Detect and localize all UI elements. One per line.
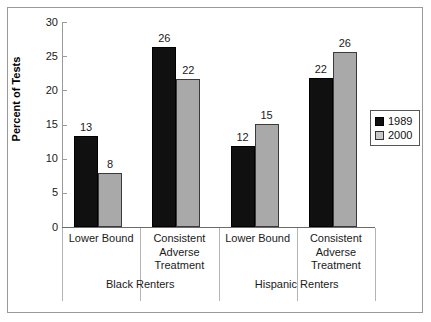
group-label-0: Black Renters (62, 278, 219, 300)
legend-swatch-icon-2000 (375, 131, 384, 140)
legend-swatch-icon-1989 (375, 117, 384, 126)
bar-value-label: 26 (146, 33, 182, 44)
y-axis-tick-label: 20 (30, 85, 58, 96)
category-label: ConsistentAdverseTreatment (140, 228, 218, 274)
bar-2000-cat2 (255, 124, 279, 227)
y-axis-tick-label: 25 (30, 51, 58, 62)
bar-1989-cat0 (74, 136, 98, 227)
bar-1989-cat2 (231, 146, 255, 227)
legend-item-2000: 2000 (375, 128, 415, 142)
legend-label-1989: 1989 (388, 116, 412, 127)
chart-figure: Percent of Tests 051015202530 1382622121… (0, 0, 431, 322)
category-label: Lower Bound (62, 228, 140, 274)
y-axis-tick-label: 10 (30, 153, 58, 164)
category-axis: Lower BoundConsistentAdverseTreatmentLow… (62, 228, 375, 301)
bar-value-label: 15 (249, 110, 285, 121)
category-divider (375, 228, 376, 301)
plot-area: 138262212152226 (62, 22, 375, 227)
y-axis-tick-labels: 051015202530 (28, 0, 58, 322)
category-label-line: Lower Bound (219, 232, 297, 246)
y-axis-tick-label: 15 (30, 119, 58, 130)
bar-1989-cat3 (309, 78, 333, 227)
category-label-line: Treatment (297, 259, 375, 273)
category-label-line: Consistent (140, 232, 218, 246)
bar-2000-cat0 (98, 173, 122, 227)
bar-value-label: 22 (170, 65, 206, 76)
legend: 1989 2000 (370, 110, 420, 146)
y-axis-tick-label: 5 (30, 187, 58, 198)
category-label-line: Consistent (297, 232, 375, 246)
bar-2000-cat1 (176, 79, 200, 227)
bar-value-label: 8 (92, 159, 128, 170)
bar-value-label: 13 (68, 122, 104, 133)
y-axis-tick-label: 0 (30, 222, 58, 233)
category-label-line: Adverse (140, 246, 218, 260)
bar-value-label: 26 (327, 38, 363, 49)
legend-item-1989: 1989 (375, 114, 415, 128)
category-label: Lower Bound (219, 228, 297, 274)
bar-2000-cat3 (333, 52, 357, 227)
category-label-line: Lower Bound (62, 232, 140, 246)
legend-label-2000: 2000 (388, 130, 412, 141)
category-label-line: Treatment (140, 259, 218, 273)
group-label-1: Hispanic Renters (219, 278, 376, 300)
category-label-line: Adverse (297, 246, 375, 260)
y-axis-title: Percent of Tests (10, 39, 22, 159)
category-label: ConsistentAdverseTreatment (297, 228, 375, 274)
y-axis-tick-label: 30 (30, 17, 58, 28)
